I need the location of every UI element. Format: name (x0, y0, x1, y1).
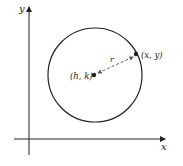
circle-point (134, 52, 138, 56)
x-axis-label: x (161, 141, 167, 152)
y-axis-label: y (18, 3, 25, 14)
radius-line (98, 57, 133, 73)
circle-diagram: y x r (h, k) (x, y) (0, 0, 183, 166)
radius-label: r (110, 55, 115, 64)
center-label: (h, k) (70, 71, 93, 81)
point-label: (x, y) (141, 50, 163, 60)
